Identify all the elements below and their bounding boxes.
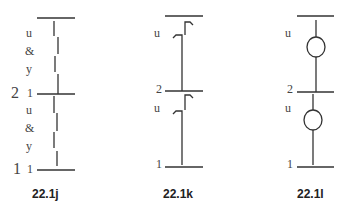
segment-label: 1 [27,162,33,176]
kinked-segment [185,22,193,35]
figure-22-1j: u & y 1 2 u & y 1 1 22.1j [11,18,75,201]
loop [304,110,322,130]
kinked-segment [185,95,193,110]
segment-label: & [25,44,35,58]
figure-caption: 22.1k [163,187,193,201]
segment-label: y [26,62,32,76]
segment-label: u [154,26,160,40]
level-label: 1 [156,157,162,171]
level-label: 1 [287,157,293,171]
segment-label: u [26,26,32,40]
level-label: 2 [11,84,19,101]
figure-caption: 22.1j [32,187,59,201]
segment-label: y [26,139,32,153]
loop [307,37,325,57]
kinked-segment [173,35,182,91]
level-label: 2 [287,82,293,96]
segment-label: & [25,121,35,135]
level-label: 1 [13,160,21,177]
segment-label: u [285,101,291,115]
kinked-segment [173,111,182,165]
segment-label: u [26,103,32,117]
segment-label: u [285,26,291,40]
figure-22-1l: u 2 u 1 22.1l [285,16,334,201]
level-label: 2 [156,82,162,96]
figure-caption: 22.1l [297,187,324,201]
segment-label: u [154,101,160,115]
diagram-canvas: u & y 1 2 u & y 1 1 22.1j u 2 u 1 22.1k [0,0,340,208]
figure-22-1k: u 2 u 1 22.1k [154,16,203,201]
segment-label: 1 [27,86,33,100]
